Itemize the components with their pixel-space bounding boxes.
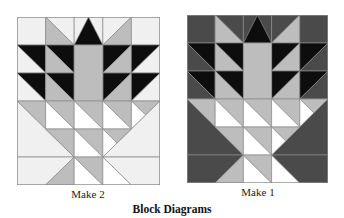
quilt-block-light: [17, 17, 160, 185]
center-stem-top: [243, 43, 271, 99]
center-stem-top: [74, 45, 103, 101]
block-diagram-make-2: [17, 17, 160, 185]
corner-square: [131, 17, 160, 45]
quilt-block-dark: [187, 15, 328, 183]
label-make-2: Make 2: [60, 188, 116, 200]
corner-square: [17, 17, 46, 45]
figure-caption: Block Diagrams: [112, 203, 232, 215]
corner-square: [300, 15, 328, 43]
corner-square: [187, 15, 215, 43]
block-diagram-make-1: [187, 15, 328, 183]
label-make-1: Make 1: [230, 186, 286, 198]
